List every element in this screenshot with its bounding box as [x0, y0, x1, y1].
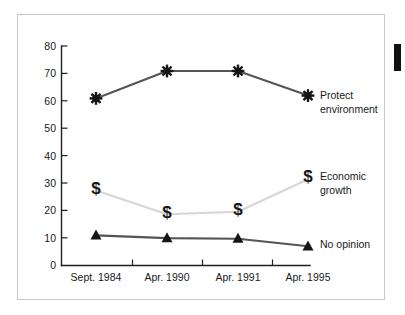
legend-label-line2: environment: [320, 103, 378, 115]
y-tick-label: 40: [44, 150, 56, 162]
axes: [62, 46, 311, 266]
y-tick-label: 0: [50, 259, 56, 271]
x-tick-label: Apr. 1990: [145, 271, 190, 283]
legend-label-line1: No opinion: [320, 238, 370, 250]
legend-label-line2: growth: [320, 184, 352, 196]
marker-asterisk-star: [90, 92, 103, 105]
line-chart: 80 70 60 50 40 30 20 10 0 Sept. 1984 Apr…: [0, 0, 405, 315]
series-economic-growth: $ $ $ $: [91, 167, 313, 221]
legend-item-protect-environment: Protect environment: [320, 89, 378, 115]
x-tick-label: Apr. 1995: [286, 271, 331, 283]
legend-item-economic-growth: Economic growth: [320, 170, 366, 196]
y-tick-label: 70: [44, 67, 56, 79]
page-root: 80 70 60 50 40 30 20 10 0 Sept. 1984 Apr…: [0, 0, 405, 315]
marker-dollar-sign: $: [162, 203, 172, 222]
marker-asterisk-star: [161, 65, 174, 78]
svg-text:$: $: [303, 167, 313, 186]
marker-asterisk-star: [302, 89, 315, 102]
series-no-opinion: [91, 230, 314, 251]
svg-text:$: $: [233, 200, 243, 219]
series-line-protect-environment: [96, 71, 308, 98]
y-tick-marks: [62, 46, 68, 238]
svg-text:$: $: [91, 179, 101, 198]
legend-label-line1: Protect: [320, 89, 353, 101]
y-tick-labels: 80 70 60 50 40 30 20 10 0: [44, 40, 56, 271]
marker-dollar-sign: $: [91, 179, 101, 198]
y-tick-label: 20: [44, 204, 56, 216]
y-tick-label: 50: [44, 122, 56, 134]
x-tick-label: Sept. 1984: [71, 271, 122, 283]
x-tick-marks: [133, 260, 273, 266]
series-line-no-opinion: [96, 235, 308, 246]
y-tick-label: 30: [44, 177, 56, 189]
marker-asterisk-star: [232, 65, 245, 78]
marker-dollar-sign: $: [233, 200, 243, 219]
y-tick-label: 10: [44, 232, 56, 244]
svg-text:$: $: [162, 203, 172, 222]
series-protect-environment: [90, 65, 315, 105]
x-tick-label: Apr. 1991: [216, 271, 261, 283]
y-tick-label: 60: [44, 95, 56, 107]
legend-item-no-opinion: No opinion: [320, 238, 370, 250]
series-line-economic-growth: [96, 179, 308, 214]
x-tick-labels: Sept. 1984 Apr. 1990 Apr. 1991 Apr. 1995: [71, 271, 331, 283]
legend: Protect environment Economic growth No o…: [320, 89, 378, 250]
y-tick-label: 80: [44, 40, 56, 52]
legend-label-line1: Economic: [320, 170, 366, 182]
marker-dollar-sign: $: [303, 167, 313, 186]
